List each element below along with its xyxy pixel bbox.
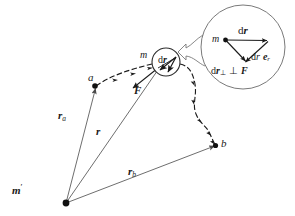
label-vector-r: r [96,126,100,137]
physics-diagram-figure: m′ a b m dr ra r rb F m dr drer dr⊥⊥F [0,0,295,216]
label-moving-mass-m: m [140,50,147,60]
inset-vector-dr-perp [227,41,246,61]
label-vector-r-b: rb [128,166,136,178]
inset-label-dr-er: drer [251,52,270,63]
label-dr-in-circle: dr [158,55,167,65]
inset-label-m: m [212,34,219,44]
point-b-dot [213,143,218,148]
vector-r [66,64,162,203]
inset-label-dr: dr [238,25,248,36]
point-a-dot [92,83,98,89]
path-direction-arrows [112,67,215,145]
diagram-canvas [0,0,295,216]
inset-mass-dot [223,38,228,43]
vector-r-b [66,146,215,203]
vector-r-a [66,89,96,204]
label-point-b: b [221,138,227,149]
label-point-a: a [88,72,94,83]
label-vector-r-a: ra [58,110,66,122]
inset-label-dr-perp-F: dr⊥⊥F [211,66,248,77]
point-m-prime-dot [63,200,70,207]
inset-vector-dr [226,40,267,41]
label-force-F: F [134,85,141,96]
label-m-prime: m′ [12,183,23,196]
